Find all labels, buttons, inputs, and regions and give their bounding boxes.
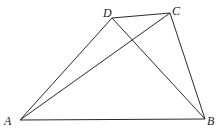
segment-CD — [112, 13, 170, 18]
segment-DA — [20, 18, 112, 120]
vertex-label-D: D — [102, 6, 112, 20]
geometry-diagram: ABCD — [0, 0, 222, 131]
segments — [20, 13, 205, 120]
segment-AC — [20, 13, 170, 120]
vertex-label-A: A — [3, 114, 12, 128]
vertex-label-B: B — [207, 114, 215, 128]
segment-AB — [20, 119, 205, 120]
segment-DB — [112, 18, 205, 119]
vertex-label-C: C — [172, 4, 181, 18]
segment-BC — [170, 13, 205, 119]
